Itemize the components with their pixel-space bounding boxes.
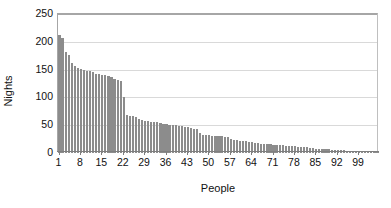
x-axis-tick-label: 64 [245, 156, 257, 168]
bar [190, 128, 192, 153]
y-axis-tick-label: 150 [25, 64, 53, 74]
bar [184, 127, 186, 153]
x-axis-tick-label: 71 [267, 156, 279, 168]
bar [65, 52, 67, 153]
x-axis-tick-mark [123, 152, 124, 155]
bar [86, 71, 88, 153]
x-axis-tick-mark [101, 152, 102, 155]
bar [107, 76, 109, 153]
x-axis-tick-mark [144, 152, 145, 155]
bar [153, 122, 155, 153]
bar [117, 80, 119, 153]
x-axis-tick-label: 92 [331, 156, 343, 168]
bar [123, 97, 125, 153]
bar [135, 117, 137, 153]
bar-chart: Nights 050100150200250 18152229364350576… [0, 0, 391, 208]
x-axis-tick-label: 8 [77, 156, 83, 168]
bar [141, 120, 143, 153]
y-axis-tick-labels: 050100150200250 [24, 0, 53, 208]
bar [193, 129, 195, 153]
bar [168, 125, 170, 153]
x-axis-tick-mark [358, 152, 359, 155]
x-axis-title: People [57, 182, 379, 194]
x-axis-tick-label: 29 [138, 156, 150, 168]
bar-series [58, 14, 379, 153]
y-axis-tick-label: 250 [25, 8, 53, 18]
bar [95, 74, 97, 154]
bar [126, 115, 128, 153]
bar [138, 119, 140, 153]
y-axis-tick-label: 50 [25, 119, 53, 129]
x-axis-tick-label: 1 [56, 156, 62, 168]
bar [150, 122, 152, 153]
x-axis-tick-label: 22 [117, 156, 129, 168]
bar [77, 68, 79, 153]
x-axis-tick-label: 36 [160, 156, 172, 168]
bar [196, 129, 198, 153]
x-axis-tick-mark [315, 152, 316, 155]
x-axis-tick-mark [80, 152, 81, 155]
x-axis-tick-label: 50 [202, 156, 214, 168]
bar [120, 81, 122, 153]
bar [68, 55, 70, 153]
bar [147, 121, 149, 153]
y-axis-title-label: Nights [2, 56, 14, 126]
x-axis-tick-mark [230, 152, 231, 155]
x-axis-tick-mark [187, 152, 188, 155]
bar [178, 126, 180, 153]
y-axis-title: Nights [2, 0, 16, 56]
x-axis-tick-mark [337, 152, 338, 155]
bar [172, 125, 174, 153]
x-axis-tick-mark [59, 152, 60, 155]
bar [156, 122, 158, 153]
bar [74, 66, 76, 153]
bar [101, 75, 103, 153]
plot-area [57, 13, 378, 152]
bar [165, 124, 167, 153]
x-axis-tick-label: 85 [309, 156, 321, 168]
bar [199, 133, 201, 153]
bar [71, 63, 73, 153]
x-axis-tick-label: 15 [95, 156, 107, 168]
x-axis-tick-mark [294, 152, 295, 155]
bar [129, 116, 131, 153]
y-axis-tick-label: 100 [25, 91, 53, 101]
x-axis-tick-label: 78 [288, 156, 300, 168]
bar [162, 124, 164, 153]
bar [187, 127, 189, 153]
bar [132, 116, 134, 153]
bar [80, 69, 82, 153]
bar [110, 77, 112, 153]
x-axis-tick-label: 43 [181, 156, 193, 168]
bar [61, 38, 63, 153]
y-axis-tick-label: 200 [25, 36, 53, 46]
bar [92, 72, 94, 153]
x-axis-tick-mark [273, 152, 274, 155]
bar [83, 70, 85, 153]
x-axis-tick-mark [166, 152, 167, 155]
bar [175, 125, 177, 153]
bar [89, 71, 91, 153]
bar [58, 35, 60, 153]
x-axis-tick-mark [208, 152, 209, 155]
bar [113, 79, 115, 153]
x-axis-tick-label: 57 [224, 156, 236, 168]
bar [104, 75, 106, 153]
x-axis-tick-mark [251, 152, 252, 155]
x-axis-tick-label: 99 [352, 156, 364, 168]
bar [159, 123, 161, 153]
y-axis-tick-label: 0 [25, 147, 53, 157]
bar [98, 74, 100, 153]
bar [144, 121, 146, 153]
x-axis-tick-labels: 1815222936435057647178859299 [57, 156, 379, 170]
bar [181, 126, 183, 153]
